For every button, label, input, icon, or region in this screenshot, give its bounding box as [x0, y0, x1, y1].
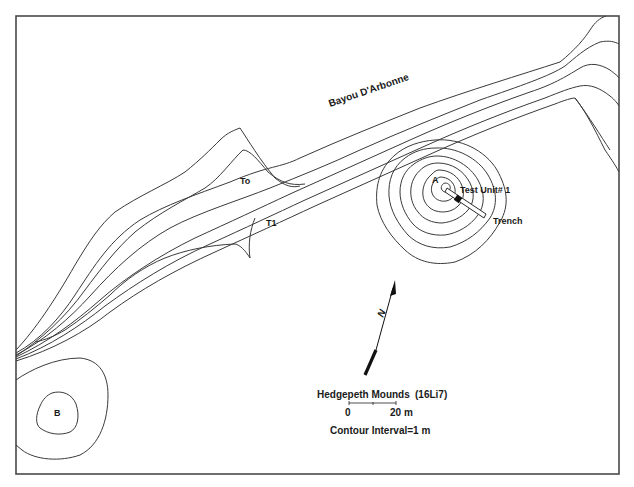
mound-b-contour-1	[16, 358, 108, 459]
terrace-label-t1: T1	[266, 218, 277, 228]
bayou-bank-contours	[16, 16, 619, 361]
site-code: (16Li7)	[415, 389, 447, 400]
map-frame	[16, 16, 619, 474]
bank-contour-4	[16, 85, 619, 359]
north-arrow-head-icon	[390, 280, 396, 296]
terrace-label-t0: To	[240, 176, 251, 186]
bank-contour-3	[16, 64, 619, 357]
test-unit-label: Test Unit# 1	[460, 185, 510, 195]
scale-end-label: 20 m	[390, 407, 413, 418]
mound-a-contour-1	[377, 140, 507, 264]
map-legend: Hedgepeth Mounds (16Li7) 0 20 m Contour …	[317, 389, 447, 436]
bank-contour-2	[16, 41, 619, 355]
mound-b-contours	[16, 358, 108, 459]
contour-interval-label: Contour Interval=1 m	[330, 425, 430, 436]
north-arrow	[365, 280, 396, 375]
trench-label: Trench	[493, 216, 523, 226]
terrace-t1	[35, 218, 255, 342]
site-map: Bayou D'Arbonne To T1 A B Test Unit# 1 T…	[0, 0, 634, 487]
bank-contour-6	[575, 98, 610, 150]
mound-a-contours	[377, 140, 507, 264]
terrace-contours	[16, 128, 305, 356]
north-arrow-label: N	[375, 307, 388, 319]
mound-label-a: A	[432, 175, 439, 185]
river-label: Bayou D'Arbonne	[327, 71, 410, 109]
mound-label-b: B	[54, 408, 61, 418]
scale-start-label: 0	[345, 407, 351, 418]
north-arrow-shaft-thick	[365, 350, 376, 375]
site-name: Hedgepeth Mounds	[317, 389, 410, 400]
bank-contour-5	[16, 98, 619, 361]
